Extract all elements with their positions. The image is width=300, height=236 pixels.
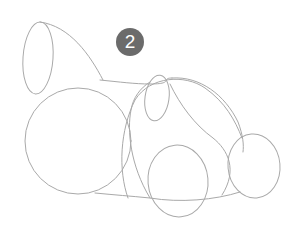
body-shape [122, 79, 242, 198]
back-outline [172, 78, 243, 152]
body-inner-curve [129, 82, 150, 198]
head-shape [25, 88, 131, 194]
cheek-shape [142, 74, 172, 123]
bunny-sketch-illustration [0, 0, 300, 236]
ear-shape [21, 21, 56, 95]
haunch-curve [170, 84, 230, 195]
step-number-badge: 2 [116, 28, 144, 56]
belly-line [95, 192, 240, 200]
back-paw-shape [225, 132, 282, 200]
front-paw-shape [145, 143, 211, 220]
